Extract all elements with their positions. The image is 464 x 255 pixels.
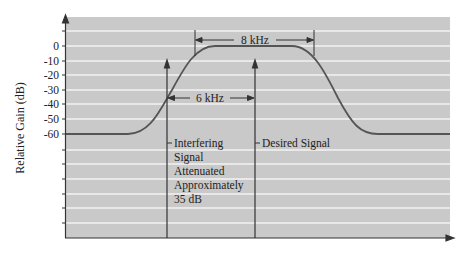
svg-text:35 dB: 35 dB xyxy=(174,193,202,205)
svg-text:Signal: Signal xyxy=(174,151,203,164)
y-tick-minus60: -60 xyxy=(44,128,60,140)
svg-text:Attenuated: Attenuated xyxy=(174,165,225,177)
x-axis-arrow-icon xyxy=(446,235,454,241)
y-tick-0: 0 xyxy=(53,40,59,52)
y-axis-arrow-icon xyxy=(63,15,69,23)
gain-response-diagram: 0 -10 -20 -30 -40 -50 -60 Relative Gain … xyxy=(0,0,464,255)
y-tick-minus40: -40 xyxy=(44,98,60,110)
plot-area xyxy=(65,17,450,238)
desired-signal-label: Desired Signal xyxy=(262,137,330,150)
bw-6khz-label: 6 kHz xyxy=(196,92,224,104)
y-tick-minus20: -20 xyxy=(44,69,60,81)
bw-8khz-label: 8 kHz xyxy=(241,34,269,46)
y-tick-minus30: -30 xyxy=(44,84,60,96)
y-axis-label: Relative Gain (dB) xyxy=(13,82,27,173)
svg-text:Interfering: Interfering xyxy=(174,137,223,150)
y-tick-labels: 0 -10 -20 -30 -40 -50 -60 xyxy=(44,40,60,140)
y-tick-minus10: -10 xyxy=(44,55,60,67)
svg-text:Approximately: Approximately xyxy=(174,179,244,192)
y-tick-minus50: -50 xyxy=(44,113,60,125)
